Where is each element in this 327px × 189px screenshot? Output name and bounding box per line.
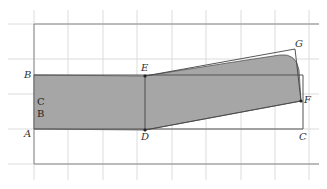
- geometry-diagram: B A E D G F C C B: [0, 0, 327, 189]
- label-a: A: [23, 128, 31, 139]
- label-g: G: [295, 38, 303, 49]
- shaded-region: [34, 55, 301, 130]
- label-e: E: [140, 62, 149, 73]
- region-label-b: B: [37, 108, 44, 119]
- label-c: C: [299, 131, 307, 142]
- label-f: F: [303, 94, 312, 105]
- label-d: D: [140, 131, 149, 142]
- label-b: B: [23, 69, 31, 80]
- region-label-c: C: [37, 96, 45, 107]
